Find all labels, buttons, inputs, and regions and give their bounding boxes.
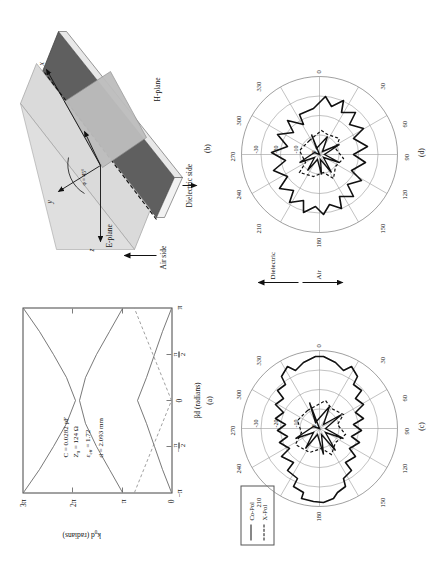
axis-label-y: y xyxy=(44,200,53,203)
label-phi-angle: φ = 45° xyxy=(80,168,86,185)
panel-c-angle-210: 210 xyxy=(254,497,261,507)
panel-c-angle-300: 300 xyxy=(234,389,241,399)
figure-sheet: 3π 2π π 0 −π −π2 0 π2 π k0d (radians) βd… xyxy=(0,0,443,569)
label-dielectric-side: Dielectric side xyxy=(184,163,193,207)
label-h-plane: H-plane xyxy=(152,77,161,101)
panel-a-x-axis-label: βd (radians) xyxy=(192,307,201,493)
panel-a-parameter-list: C = 0.0282 pF Z0 = 124 Ω εeff = 1.72 d =… xyxy=(60,416,105,457)
panel-b-geometry: E-plane H-plane Air side Dielectric side… xyxy=(6,19,220,277)
panel-a-xtick-pi: π xyxy=(174,294,183,320)
panel-d-angle-210: 210 xyxy=(254,223,261,233)
panel-c-radial-0: 0 xyxy=(310,424,316,427)
panel-c-angle-330: 330 xyxy=(254,355,261,365)
panel-d-radial-10: -10 xyxy=(292,145,298,153)
panel-d-angle-30: 30 xyxy=(378,83,385,90)
panel-d-angle-90: 90 xyxy=(402,154,409,161)
panel-c-radial-30: -30 xyxy=(252,419,258,427)
panel-a-y-axis-label: k0d (radians) xyxy=(26,529,136,540)
panel-a-xtick-neg-half-pi: −π2 xyxy=(171,434,186,460)
panel-c-angle-150: 150 xyxy=(378,497,385,507)
panel-c-angle-90: 90 xyxy=(402,428,409,435)
panel-c-polar-plot: 0 30 60 90 120 150 180 210 240 270 300 3… xyxy=(230,333,408,523)
panel-d-radial-30: -30 xyxy=(252,145,258,153)
axis-label-z: z xyxy=(86,248,95,251)
panel-b-caption: (b) xyxy=(202,19,211,277)
panel-c-angle-180: 180 xyxy=(314,511,321,521)
panel-d-angle-0: 0 xyxy=(314,70,321,73)
panel-a-curves xyxy=(23,308,171,492)
solid-line-icon xyxy=(250,524,251,540)
param-length: d = 2.093 mm xyxy=(95,416,105,457)
panel-d-radial-20: -20 xyxy=(272,145,278,153)
panel-a-xtick-0: 0 xyxy=(174,387,183,413)
panel-a-ytick-2pi: 2π xyxy=(68,499,77,521)
panel-d-co-pol-inner xyxy=(299,134,339,174)
axis-label-x: x xyxy=(36,62,45,65)
medium-arrows-svg xyxy=(252,247,348,317)
panel-c-radial-20: -20 xyxy=(272,419,278,427)
label-dielectric: Dielectric xyxy=(268,251,276,279)
label-e-plane: E-plane xyxy=(104,224,113,247)
panel-a-dispersion: 3π 2π π 0 −π −π2 0 π2 π k0d (radians) βd… xyxy=(16,295,212,545)
medium-indicator-arrows: Dielectric Air xyxy=(252,247,348,317)
panel-d-angle-180: 180 xyxy=(314,237,321,247)
panel-c-angle-30: 30 xyxy=(378,357,385,364)
panel-d-angle-240: 240 xyxy=(234,189,241,199)
panel-d-angle-300: 300 xyxy=(234,115,241,125)
figure-page: 3π 2π π 0 −π −π2 0 π2 π k0d (radians) βd… xyxy=(0,0,443,569)
panel-a-xtick-half-pi: π2 xyxy=(171,341,186,367)
panel-d-angle-120: 120 xyxy=(400,189,407,199)
panel-c-angle-60: 60 xyxy=(400,395,407,402)
panel-d-angle-150: 150 xyxy=(378,223,385,233)
panel-c-x-pol-trace xyxy=(295,400,345,454)
panel-a-xtick-neg-pi: −π xyxy=(174,480,183,506)
param-capacitance: C = 0.0282 pF xyxy=(60,416,70,457)
label-air-side: Air side xyxy=(158,245,167,269)
param-epsilon-eff: εeff = 1.72 xyxy=(82,416,94,457)
panel-d-angle-270: 270 xyxy=(228,151,235,161)
panel-d-angle-330: 330 xyxy=(254,81,261,91)
panel-d-caption: (d) xyxy=(416,27,425,277)
panel-c-co-pol-inner xyxy=(295,402,343,454)
panel-c-angle-120: 120 xyxy=(400,463,407,473)
param-impedance: Z0 = 124 Ω xyxy=(70,416,82,457)
label-air: Air xyxy=(314,270,322,279)
dashed-line-icon xyxy=(263,524,264,540)
panel-c-angle-270: 270 xyxy=(228,425,235,435)
panel-c-polar-dielectric: Co-Pol X-Pol xyxy=(228,301,434,551)
panel-a-caption: (a) xyxy=(204,307,213,493)
panel-d-polar-plot: 0 30 60 90 120 150 180 210 240 270 300 3… xyxy=(230,59,408,249)
panel-c-angle-240: 240 xyxy=(234,463,241,473)
panel-d-radial-0: 0 xyxy=(310,150,316,153)
panel-d-polar-air: 0 30 60 90 120 150 180 210 240 270 300 3… xyxy=(228,27,434,277)
panel-d-angle-60: 60 xyxy=(400,121,407,128)
panel-c-caption: (c) xyxy=(416,301,425,551)
panel-c-angle-0: 0 xyxy=(314,344,321,347)
panel-a-plot-frame xyxy=(22,307,172,493)
panel-b-3d-diagram xyxy=(6,19,198,277)
panel-c-radial-10: -10 xyxy=(292,419,298,427)
panel-a-ytick-pi: π xyxy=(118,499,127,521)
panel-a-ytick-3pi: 3π xyxy=(18,499,27,521)
